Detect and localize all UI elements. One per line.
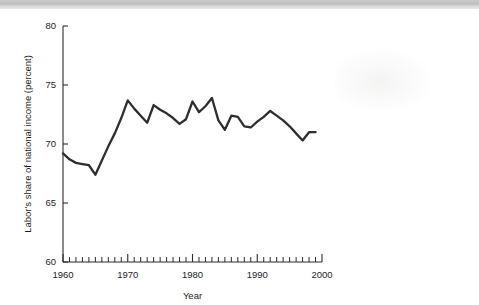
top-gray-band bbox=[0, 0, 479, 9]
chart-ticks bbox=[63, 26, 322, 262]
x-tick-label: 1970 bbox=[117, 269, 138, 280]
chart-axes bbox=[63, 26, 322, 262]
chart-series bbox=[63, 98, 316, 175]
y-tick-label: 60 bbox=[45, 256, 56, 267]
x-tick-label: 2000 bbox=[311, 269, 332, 280]
line-chart: 606570758019601970198019902000 Year Labo… bbox=[0, 9, 479, 305]
y-tick-label: 75 bbox=[45, 79, 56, 90]
x-axis-title: Year bbox=[183, 290, 202, 301]
chart-figure: 606570758019601970198019902000 Year Labo… bbox=[0, 9, 479, 305]
y-tick-label: 80 bbox=[45, 20, 56, 31]
y-tick-label: 70 bbox=[45, 138, 56, 149]
x-tick-label: 1980 bbox=[182, 269, 203, 280]
series-line-0 bbox=[63, 98, 316, 175]
y-axis-title: Labor's share of national income (percen… bbox=[22, 55, 33, 233]
x-tick-label: 1960 bbox=[52, 269, 73, 280]
chart-tick-labels: 606570758019601970198019902000 bbox=[45, 20, 332, 280]
x-tick-label: 1990 bbox=[247, 269, 268, 280]
y-tick-label: 65 bbox=[45, 197, 56, 208]
